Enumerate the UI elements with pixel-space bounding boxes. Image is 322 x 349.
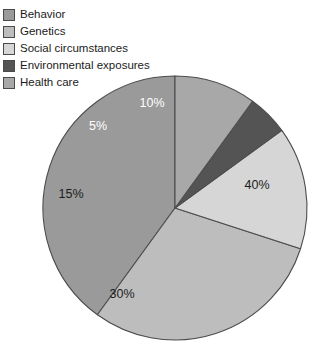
legend-item-health-care: Health care: [3, 74, 150, 91]
legend-swatch-behavior: [3, 9, 15, 21]
legend-item-behavior: Behavior: [3, 6, 150, 23]
legend-swatch-environmental-exposures: [3, 60, 15, 72]
pie-slice-value-environmental-exposures: 5%: [89, 119, 107, 133]
legend-item-genetics: Genetics: [3, 23, 150, 40]
legend-swatch-health-care: [3, 77, 15, 89]
legend-label-genetics: Genetics: [20, 25, 65, 38]
chart-legend: Behavior Genetics Social circumstances E…: [3, 6, 150, 91]
pie-slice-value-genetics: 30%: [109, 287, 134, 301]
pie-slice-value-social-circumstances: 15%: [58, 187, 83, 201]
legend-label-behavior: Behavior: [20, 8, 65, 21]
legend-item-social-circumstances: Social circumstances: [3, 40, 150, 57]
legend-item-environmental-exposures: Environmental exposures: [3, 57, 150, 74]
legend-label-health-care: Health care: [20, 76, 79, 89]
pie-slice-value-behavior: 40%: [244, 178, 269, 192]
pie-slice-group: [43, 76, 307, 340]
pie-slice-value-health-care: 10%: [139, 96, 164, 110]
legend-label-environmental-exposures: Environmental exposures: [20, 59, 150, 72]
pie-chart-figure: Behavior Genetics Social circumstances E…: [0, 0, 322, 349]
legend-swatch-genetics: [3, 26, 15, 38]
legend-label-social-circumstances: Social circumstances: [20, 42, 128, 55]
legend-swatch-social-circumstances: [3, 43, 15, 55]
